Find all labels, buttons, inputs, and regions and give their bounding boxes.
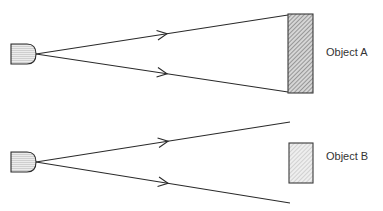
scene-object-a: [11, 14, 313, 93]
diagram-canvas: [0, 0, 383, 211]
object-b-block: [289, 143, 313, 183]
emitter-icon: [11, 44, 36, 64]
ray-line: [36, 162, 290, 203]
scene-object-b: [11, 122, 313, 203]
emitter-icon: [11, 152, 36, 172]
ray-line: [36, 54, 288, 92]
object-a-block: [288, 14, 313, 93]
ray-line: [36, 15, 288, 54]
object-b-label: Object B: [326, 150, 368, 162]
ray-line: [36, 122, 290, 162]
object-a-label: Object A: [326, 46, 368, 58]
